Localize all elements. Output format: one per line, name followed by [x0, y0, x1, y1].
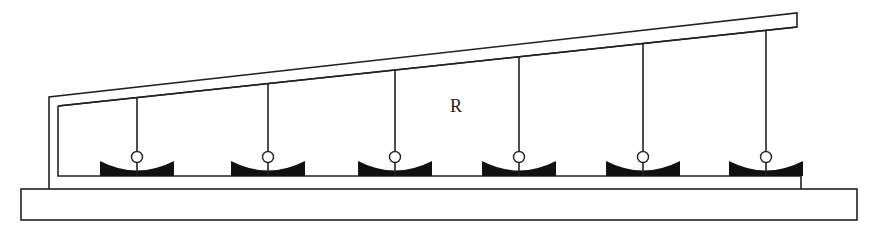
inner-enclosure [58, 106, 801, 189]
region-label: R [450, 96, 462, 116]
absorber-tube [514, 152, 525, 163]
absorber-tube [761, 152, 772, 163]
roof-inner-edge [58, 27, 797, 106]
absorber-tube [390, 152, 401, 163]
diagram-canvas: R [0, 0, 878, 237]
base-slab [21, 189, 857, 220]
absorber-tube [132, 152, 143, 163]
absorber-tube [638, 152, 649, 163]
absorber-tube [263, 152, 274, 163]
